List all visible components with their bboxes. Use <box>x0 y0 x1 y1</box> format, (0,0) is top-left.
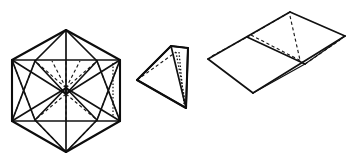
polyhedra-illustration <box>0 0 357 167</box>
figure-plate <box>0 0 357 167</box>
figure-folded-wedge-prism <box>208 12 345 93</box>
figure-tetrahedron <box>137 46 188 108</box>
figure-icosahedron <box>12 30 120 152</box>
